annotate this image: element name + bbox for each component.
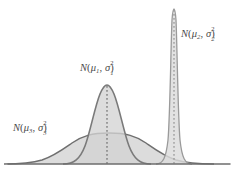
label-n1-sigma-sub: 1 <box>110 70 113 77</box>
label-n1-sigma-group: σ12 <box>105 63 110 74</box>
label-n1-sigma-sup: 2 <box>110 60 113 67</box>
label-n2-sigma-group: σ22 <box>206 29 211 40</box>
label-n3-sigma-sub: 3 <box>43 130 46 137</box>
label-n1-mu-sub: 1 <box>96 67 99 74</box>
curve-label-n1: N(μ1, σ12) <box>80 63 114 74</box>
label-n3-sigma-sup: 2 <box>43 120 46 127</box>
curve-label-n3: N(μ3, σ32) <box>13 123 47 134</box>
label-n2-sigma-sup: 2 <box>211 26 214 33</box>
gaussian-mixture-figure: N(μ2, σ22) N(μ1, σ12) N(μ3, σ32) <box>0 0 240 182</box>
label-n3-sigma-group: σ32 <box>38 123 43 134</box>
label-n3-mu-sub: 3 <box>29 127 32 134</box>
label-n2-sigma-sub: 2 <box>211 36 214 43</box>
label-n2-mu-sub: 2 <box>197 33 200 40</box>
curve-label-n2: N(μ2, σ22) <box>181 29 215 40</box>
